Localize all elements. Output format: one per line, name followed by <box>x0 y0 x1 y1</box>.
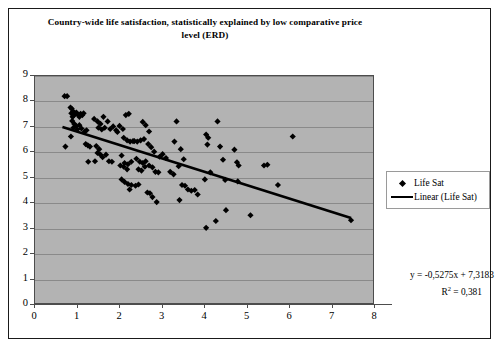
x-axis-line <box>34 304 392 305</box>
y-axis-tick-label: 0 <box>2 297 28 308</box>
x-axis-tick-mark <box>204 304 205 308</box>
x-axis-tick-mark <box>332 304 333 308</box>
x-axis-tick-label: 1 <box>65 310 89 321</box>
x-axis-tick-label: 6 <box>277 310 301 321</box>
y-axis-tick-label: 4 <box>2 195 28 206</box>
trendline-layer <box>35 76 373 303</box>
trendline-annotation: y = -0,5275x + 7,3183 R2 = 0,381 <box>376 268 494 299</box>
plot-area <box>34 75 374 304</box>
x-axis-tick-label: 2 <box>107 310 131 321</box>
x-axis-tick-mark <box>34 304 35 308</box>
x-axis-tick-label: 8 <box>362 310 386 321</box>
y-axis-tick-label: 3 <box>2 221 28 232</box>
legend-item-linear-life-sat: Linear (Life Sat) <box>390 190 486 204</box>
r-squared-value: R2 = 0,381 <box>376 282 494 299</box>
r-squared-number: = 0,381 <box>451 287 482 297</box>
y-axis-tick-label: 7 <box>2 119 28 130</box>
x-axis-tick-mark <box>374 304 375 308</box>
chart-title: Country-wide life satisfaction, statisti… <box>40 16 370 42</box>
regression-equation: y = -0,5275x + 7,3183 <box>376 268 494 282</box>
trendline <box>62 127 351 218</box>
y-axis-tick-label: 2 <box>2 246 28 257</box>
x-axis-tick-mark <box>162 304 163 308</box>
chart-legend: Life Sat Linear (Life Sat) <box>386 171 490 209</box>
y-axis-tick-label: 8 <box>2 93 28 104</box>
legend-item-life-sat: Life Sat <box>390 176 486 190</box>
x-axis-tick-label: 3 <box>150 310 174 321</box>
x-axis-tick-mark <box>247 304 248 308</box>
y-axis-tick-label: 1 <box>2 272 28 283</box>
x-axis-tick-label: 4 <box>192 310 216 321</box>
y-axis-tick-label: 9 <box>2 68 28 79</box>
y-axis-tick-label: 6 <box>2 144 28 155</box>
x-axis-tick-mark <box>289 304 290 308</box>
diamond-marker-icon <box>390 181 414 186</box>
legend-label-linear-life-sat: Linear (Life Sat) <box>414 192 477 202</box>
chart-screenshot: Country-wide life satisfaction, statisti… <box>0 0 499 347</box>
x-axis-tick-label: 0 <box>22 310 46 321</box>
x-axis-tick-mark <box>119 304 120 308</box>
x-axis-tick-mark <box>77 304 78 308</box>
y-axis-tick-label: 5 <box>2 170 28 181</box>
x-axis-tick-label: 5 <box>235 310 259 321</box>
legend-label-life-sat: Life Sat <box>414 178 444 188</box>
line-marker-icon <box>390 196 414 199</box>
x-axis-tick-label: 7 <box>320 310 344 321</box>
